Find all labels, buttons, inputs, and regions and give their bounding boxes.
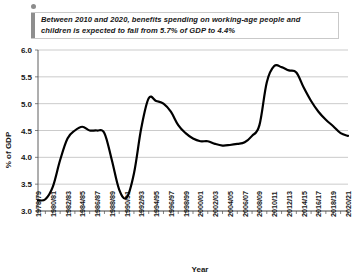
y-tick-label: 3.5	[21, 180, 33, 189]
x-tick-label: 2014/15	[300, 191, 309, 217]
x-tick-label: 1982/83	[64, 191, 73, 217]
x-tick-label: 2006/07	[241, 191, 250, 217]
data-series-line	[38, 65, 348, 201]
y-tick-label: 4.5	[21, 127, 33, 136]
x-tick-label: 2000/01	[196, 191, 205, 217]
chart-container: 3.03.54.04.55.05.56.0 1978/791980/811982…	[0, 40, 352, 279]
x-tick-label: 2004/05	[226, 191, 235, 217]
x-tick-label: 2016/17	[314, 191, 323, 217]
line-chart: 3.03.54.04.55.05.56.0 1978/791980/811982…	[0, 40, 352, 279]
y-axis-ticks: 3.03.54.04.55.05.56.0	[21, 46, 38, 216]
y-tick-label: 3.0	[21, 207, 33, 216]
y-tick-label: 6.0	[21, 46, 33, 55]
gridlines	[38, 50, 348, 211]
x-tick-label: 1978/79	[34, 191, 43, 217]
y-tick-label: 4.0	[21, 153, 33, 162]
bullet-dot-icon	[31, 4, 36, 9]
x-tick-label: 2020/21	[344, 191, 352, 217]
x-axis-title: Year	[192, 265, 209, 274]
x-tick-label: 2002/03	[211, 191, 220, 217]
caption-text: Between 2010 and 2020, benefits spending…	[35, 15, 338, 36]
x-tick-label: 1994/95	[152, 191, 161, 217]
x-tick-label: 1988/89	[108, 191, 117, 217]
x-tick-label: 1992/93	[137, 191, 146, 217]
x-tick-label: 1984/85	[78, 191, 87, 217]
x-tick-label: 2010/11	[270, 191, 279, 217]
x-tick-label: 2008/09	[255, 191, 264, 217]
caption-callout: Between 2010 and 2020, benefits spending…	[31, 12, 339, 39]
x-tick-label: 2012/13	[285, 191, 294, 217]
x-tick-label: 1996/97	[167, 191, 176, 217]
x-axis-ticks: 1978/791980/811982/831984/851986/871988/…	[34, 191, 352, 217]
x-tick-label: 1986/87	[93, 191, 102, 217]
y-tick-label: 5.5	[21, 73, 33, 82]
y-tick-label: 5.0	[21, 100, 33, 109]
x-tick-label: 2018/19	[329, 191, 338, 217]
y-axis-title: % of GDP	[4, 131, 13, 168]
x-tick-label: 1998/99	[182, 191, 191, 217]
